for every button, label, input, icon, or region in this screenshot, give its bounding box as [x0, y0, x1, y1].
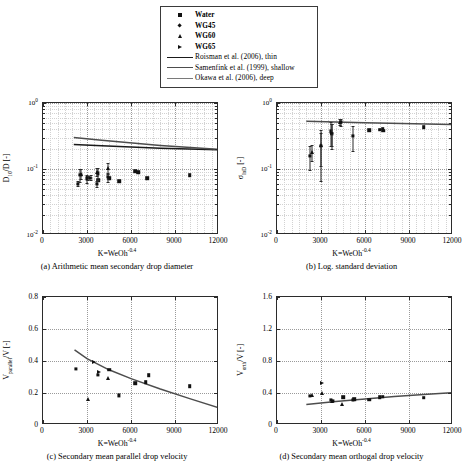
y-tick-minor	[277, 123, 279, 124]
x-tick	[409, 420, 410, 423]
data-point-wg45	[352, 399, 355, 402]
model-curves-d	[277, 297, 452, 424]
y-axis-label: Vparallel/V [-]	[2, 340, 13, 380]
legend-entry-3: WG65	[165, 42, 313, 53]
x-tick	[321, 103, 322, 106]
data-point-water	[147, 373, 151, 377]
data-point-wg65	[97, 370, 101, 374]
data-point-water	[137, 170, 141, 174]
x-tick-label: 3000	[78, 426, 93, 435]
error-bar-cap	[96, 187, 99, 188]
legend-line-swatch	[165, 67, 195, 68]
data-point-water	[144, 380, 148, 384]
y-tick	[277, 329, 280, 330]
y-tick-minor	[449, 179, 451, 180]
y-tick-minor	[215, 106, 217, 107]
model-curves-c	[43, 297, 218, 424]
error-bar-cap	[106, 182, 109, 183]
y-tick-minor	[277, 149, 279, 150]
data-point-wg45	[106, 176, 109, 179]
y-tick-minor	[449, 175, 451, 176]
y-tick-minor	[449, 118, 451, 119]
x-tick	[87, 420, 88, 423]
y-tick-minor	[43, 106, 45, 107]
y-tick-minor	[449, 195, 451, 196]
x-tick-label: 9000	[166, 236, 181, 245]
y-tick-minor	[449, 123, 451, 124]
x-tick-label: 12000	[443, 426, 462, 435]
y-tick-minor	[215, 172, 217, 173]
y-tick-minor	[277, 189, 279, 190]
legend-entry-6: Okawa et al. (2006), deep	[165, 73, 313, 84]
x-tick-label: 0	[40, 236, 44, 245]
legend-marker-square-icon	[165, 13, 195, 17]
error-bar-cap	[330, 122, 333, 123]
x-tick	[409, 230, 410, 233]
data-point-wg65	[89, 176, 93, 180]
y-axis-label: Vorth/V [-]	[236, 344, 247, 376]
x-tick-label: 12000	[209, 426, 228, 435]
x-tick	[87, 297, 88, 300]
legend-label: Samenfink et al. (1999), shallow	[195, 63, 295, 73]
legend-entry-4: Roisman et al. (2006), thin	[165, 52, 313, 63]
y-tick-minor	[449, 129, 451, 130]
y-tick-minor	[449, 109, 451, 110]
y-tick-label: 0	[6, 420, 38, 429]
error-bar-cap	[309, 170, 312, 171]
y-tick	[448, 329, 451, 330]
legend-label: WG60	[195, 31, 215, 41]
error-bar-cap	[331, 146, 334, 147]
data-point-wg45	[352, 134, 355, 137]
y-tick-minor	[277, 179, 279, 180]
triangle-right-marker-icon	[178, 45, 182, 49]
y-tick-minor	[215, 113, 217, 114]
y-tick-minor	[43, 123, 45, 124]
data-point-water	[188, 174, 192, 178]
y-axis-label: D10/D [-]	[2, 153, 13, 182]
legend-marker-diamond-icon	[165, 24, 195, 27]
legend-label: WG45	[195, 21, 215, 31]
y-tick-label: 0.2	[6, 388, 38, 397]
error-bar	[353, 126, 354, 151]
y-tick-minor	[43, 204, 45, 205]
x-tick	[131, 420, 132, 423]
line-icon	[167, 57, 193, 58]
data-point-water	[145, 176, 149, 180]
data-point-wg65	[92, 360, 96, 364]
panel-a: 03000600090001200010010-110-2K=WeOh-0.4D…	[0, 88, 234, 268]
plot-area-c	[42, 296, 218, 424]
y-tick	[214, 103, 217, 104]
data-point-wg60	[338, 120, 342, 124]
y-tick-label: 0.6	[6, 324, 38, 333]
x-tick	[43, 230, 44, 233]
model-curves-b	[277, 103, 452, 234]
x-tick	[365, 103, 366, 106]
x-tick	[409, 297, 410, 300]
y-tick	[277, 103, 280, 104]
legend-marker-triangle-right-icon	[165, 45, 195, 49]
y-tick-minor	[215, 189, 217, 190]
data-point-water	[188, 384, 192, 388]
y-tick-minor	[449, 113, 451, 114]
data-point-water	[134, 381, 138, 385]
y-tick-minor	[215, 195, 217, 196]
error-bar-cap	[352, 126, 355, 127]
y-tick	[214, 297, 217, 298]
square-marker-icon	[178, 13, 182, 17]
plot-area-d	[276, 296, 452, 424]
x-tick-label: 9000	[166, 426, 181, 435]
x-tick	[87, 230, 88, 233]
error-bar-cap	[320, 133, 323, 134]
y-tick-minor	[277, 175, 279, 176]
error-bar-cap	[339, 125, 342, 126]
y-tick	[277, 169, 280, 170]
data-point-wg45	[96, 182, 99, 185]
data-point-wg65	[320, 381, 324, 385]
line-icon	[167, 78, 193, 79]
model-curves-a	[43, 103, 218, 234]
x-axis-label: K=WeOh-0.4	[0, 437, 234, 448]
y-tick-minor	[215, 109, 217, 110]
x-axis-label: K=WeOh-0.4	[234, 437, 469, 448]
error-bar-cap	[90, 180, 93, 181]
y-tick-minor	[449, 149, 451, 150]
